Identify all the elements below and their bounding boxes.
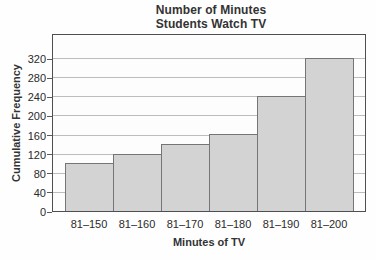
- y-tick-mark-160: [47, 135, 52, 136]
- y-tick-label-320: 320: [12, 54, 46, 65]
- y-tick-label-200: 200: [12, 111, 46, 122]
- y-tick-label-240: 240: [12, 92, 46, 103]
- bar-81–170: [161, 144, 211, 211]
- bar-81–200: [305, 58, 355, 211]
- y-tick-mark-240: [47, 97, 52, 98]
- bar-81–180: [209, 134, 259, 211]
- y-tick-label-280: 280: [12, 73, 46, 84]
- chart-title-line2: Students Watch TV: [52, 18, 370, 32]
- bar-81–150: [65, 163, 115, 211]
- y-tick-mark-0: [47, 212, 52, 213]
- y-tick-mark-120: [47, 154, 52, 155]
- cumulative-frequency-histogram: Number of Minutes Students Watch TV Cumu…: [0, 0, 376, 260]
- chart-title: Number of Minutes Students Watch TV: [52, 4, 370, 31]
- x-axis-title: Minutes of TV: [52, 236, 366, 248]
- y-tick-label-40: 40: [12, 187, 46, 198]
- y-tick-mark-280: [47, 78, 52, 79]
- plot-area: [52, 34, 366, 212]
- y-tick-label-160: 160: [12, 130, 46, 141]
- x-tick-label-81–200: 81–200: [299, 218, 359, 230]
- bar-81–160: [113, 154, 163, 211]
- y-tick-label-120: 120: [12, 149, 46, 160]
- y-tick-mark-40: [47, 192, 52, 193]
- y-tick-mark-320: [47, 59, 52, 60]
- y-tick-label-80: 80: [12, 168, 46, 179]
- y-tick-label-0: 0: [12, 207, 46, 218]
- chart-title-line1: Number of Minutes: [52, 4, 370, 18]
- bar-81–190: [257, 96, 307, 211]
- y-tick-mark-200: [47, 116, 52, 117]
- y-tick-mark-80: [47, 173, 52, 174]
